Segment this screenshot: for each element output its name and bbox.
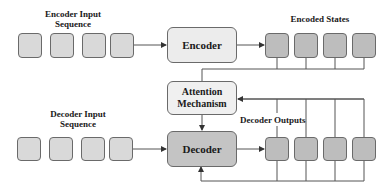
- decoder-input-token: [109, 137, 133, 161]
- decoder-output-token: [294, 137, 318, 161]
- decoder-input-token: [49, 137, 73, 161]
- decoder-output-token: [323, 137, 347, 161]
- encoder-input-token: [82, 33, 106, 58]
- decoder-input-token: [81, 137, 105, 161]
- encoder-input-label-line1: Encoder Input: [33, 9, 113, 19]
- encoded-state-token: [265, 33, 289, 58]
- encoder-input-token: [110, 33, 134, 58]
- encoded-state-token: [352, 33, 376, 58]
- encoded-state-token: [323, 33, 347, 58]
- encoded-states-label: Encoded States: [280, 14, 360, 24]
- encoder-input-token: [18, 33, 42, 58]
- decoder-input-label-line1: Decoder Input: [38, 109, 118, 119]
- encoder-input-token: [50, 33, 74, 58]
- decoder-outputs-label: Decoder Outputs: [240, 115, 302, 125]
- encoder-label: Encoder: [182, 39, 222, 52]
- decoder-block: Decoder: [167, 131, 237, 167]
- encoder-input-label-line2: Sequence: [33, 19, 113, 29]
- encoded-state-token: [294, 33, 318, 58]
- decoder-output-token: [265, 137, 289, 161]
- decoder-output-token: [352, 137, 376, 161]
- encoder-block: Encoder: [167, 27, 237, 63]
- decoder-input-label-line2: Sequence: [38, 119, 118, 129]
- decoder-input-label: Decoder Input Sequence: [38, 109, 118, 129]
- decoder-label: Decoder: [182, 143, 221, 156]
- decoder-input-token: [17, 137, 41, 161]
- attention-mechanism-block: Attention Mechanism: [167, 81, 237, 115]
- encoder-input-label: Encoder Input Sequence: [33, 9, 113, 29]
- attention-label-line2: Mechanism: [177, 98, 226, 110]
- attention-label-line1: Attention: [182, 86, 223, 98]
